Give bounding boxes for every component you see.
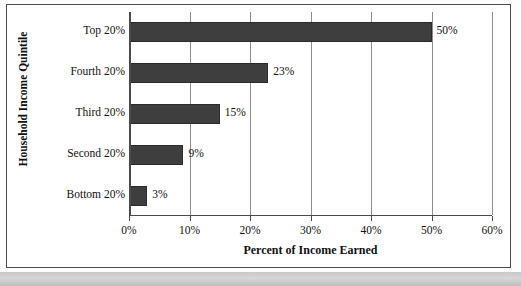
category-label-third: Third 20%: [5, 106, 125, 118]
tick-20%: [250, 216, 251, 221]
x-axis-title: Percent of Income Earned: [129, 243, 492, 258]
gridline-20%: [250, 12, 251, 215]
gridline-30%: [311, 12, 312, 215]
chart-page: Household Income Quintile Top 20% Fourth…: [0, 0, 521, 286]
tick-30%: [311, 216, 312, 221]
bar-third-20: [129, 104, 220, 124]
tick-50%: [432, 216, 433, 221]
tick-40%: [371, 216, 372, 221]
value-label-fourth-20: 23%: [273, 65, 294, 77]
plot-area: 50%23%15%9%3% 0%10%20%30%40%50%60%: [129, 12, 492, 216]
value-label-top-20: 50%: [437, 24, 458, 36]
category-label-second: Second 20%: [5, 147, 125, 159]
tick-0%: [129, 216, 130, 221]
category-axis-labels: Top 20% Fourth 20% Third 20% Second 20% …: [7, 12, 125, 216]
bar-bottom-20: [129, 186, 147, 206]
tick-label-0%: 0%: [99, 224, 159, 236]
tick-label-50%: 50%: [402, 224, 462, 236]
page-bottom-band: [0, 272, 521, 286]
gridline-50%: [432, 12, 433, 215]
value-label-bottom-20: 3%: [152, 188, 167, 200]
plot-inner: 50%23%15%9%3%: [129, 12, 492, 216]
chart-frame: Household Income Quintile Top 20% Fourth…: [6, 4, 511, 268]
y-axis-line: [129, 12, 131, 216]
value-label-third-20: 15%: [225, 106, 246, 118]
tick-10%: [190, 216, 191, 221]
tick-label-40%: 40%: [341, 224, 401, 236]
tick-label-30%: 30%: [281, 224, 341, 236]
category-label-bottom: Bottom 20%: [5, 188, 125, 200]
bar-fourth-20: [129, 63, 268, 83]
tick-60%: [492, 216, 493, 221]
gridline-40%: [371, 12, 372, 215]
bar-top-20: [129, 22, 432, 42]
tick-label-10%: 10%: [160, 224, 220, 236]
category-label-fourth: Fourth 20%: [5, 65, 125, 77]
gridline-60%: [492, 12, 493, 215]
tick-label-60%: 60%: [462, 224, 521, 236]
value-label-second-20: 9%: [188, 147, 203, 159]
tick-label-20%: 20%: [220, 224, 280, 236]
bar-second-20: [129, 145, 183, 165]
category-label-top: Top 20%: [5, 24, 125, 36]
